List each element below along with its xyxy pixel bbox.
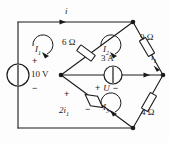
- mesh-current-I1-label: I1: [35, 45, 41, 56]
- voltage-U-minus: −: [113, 83, 118, 93]
- current-i1-label: i1: [151, 53, 157, 64]
- current-i-top-label: i: [65, 7, 68, 16]
- voltage-source-value: 10 V: [31, 70, 49, 79]
- dependent-source-subscript: 1: [66, 111, 69, 117]
- current-source-symbol: [104, 66, 122, 84]
- resistor-9-ohm-label: 9 Ω: [140, 33, 153, 42]
- node-right: [161, 73, 166, 78]
- dependent-source-minus: −: [85, 105, 90, 114]
- resistor-6-ohm-symbol: [77, 45, 96, 61]
- current-i1-subscript: 1: [154, 58, 157, 64]
- arm-top-left-6ohm: [61, 22, 133, 75]
- dependent-source-plus: +: [64, 90, 69, 99]
- arrow-i-top: [60, 20, 67, 25]
- circuit-diagram: i + 10 V − I1 I2 I3 6 Ω 9 Ω 4 Ω 3 A +U− …: [0, 0, 169, 143]
- node-top: [131, 20, 136, 25]
- mesh-current-I3-subscript: 3: [106, 108, 109, 114]
- voltage-U-symbol: U: [103, 83, 110, 93]
- voltage-source-minus: −: [32, 84, 37, 93]
- voltage-U-label: +U−: [95, 84, 118, 93]
- dependent-source-symbol: 2i: [59, 105, 66, 115]
- node-bottom: [131, 126, 136, 131]
- node-left: [59, 73, 64, 78]
- arrow-middle-right: [144, 73, 151, 78]
- resistor-6-ohm-label: 6 Ω: [62, 38, 75, 47]
- voltage-U-plus: +: [95, 83, 100, 93]
- current-source-value-label: 3 A: [101, 54, 114, 63]
- mesh-current-I1-subscript: 1: [38, 50, 41, 56]
- circuit-schematic-canvas: [0, 0, 169, 143]
- voltage-source-plus: +: [32, 57, 37, 66]
- mesh-current-I3-label: I3: [103, 103, 109, 114]
- voltage-source-symbol: [7, 64, 29, 86]
- resistor-4-ohm-label: 4 Ω: [141, 108, 154, 117]
- dependent-source-value-label: 2i1: [59, 106, 69, 117]
